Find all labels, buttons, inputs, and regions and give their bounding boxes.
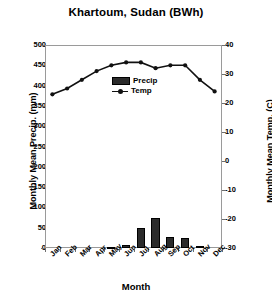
- legend-label-precip: Precip: [133, 76, 157, 86]
- legend-item-precip: Precip: [112, 76, 157, 86]
- climate-chart: Khartoum, Sudan (BWh) Monthly Mean Preci…: [0, 0, 272, 298]
- temp-point-dec: [213, 89, 217, 93]
- legend-item-temp: Temp: [112, 86, 157, 96]
- temp-point-oct: [183, 63, 187, 67]
- temp-point-jun: [124, 60, 128, 64]
- temp-point-jan: [50, 92, 54, 96]
- chart-legend: Precip Temp: [112, 76, 157, 96]
- temp-line-swatch-icon: [112, 88, 128, 94]
- temp-point-sep: [168, 63, 172, 67]
- temp-point-aug: [154, 66, 158, 70]
- temp-point-apr: [95, 69, 99, 73]
- temp-point-feb: [65, 86, 69, 90]
- legend-label-temp: Temp: [131, 86, 152, 96]
- temp-point-nov: [198, 78, 202, 82]
- temp-point-may: [109, 63, 113, 67]
- precip-swatch-icon: [112, 77, 130, 85]
- temp-point-jul: [139, 60, 143, 64]
- temp-line-series: [0, 0, 272, 298]
- temp-point-mar: [80, 78, 84, 82]
